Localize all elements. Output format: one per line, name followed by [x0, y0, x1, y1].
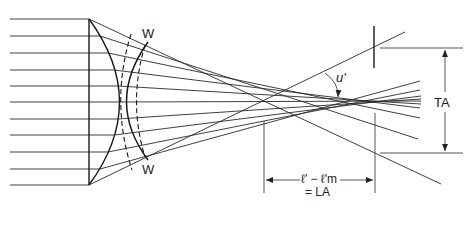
wavefront-w	[127, 42, 149, 160]
wavefront-label-top: W	[142, 26, 155, 41]
angle-label: u'	[336, 70, 346, 85]
refracted-rays	[89, 19, 441, 185]
wavefront-label-bottom: W	[142, 162, 155, 177]
la-formula-label: ℓ' − ℓ'm	[301, 172, 337, 186]
ta-label: TA	[434, 95, 450, 110]
la-result-label: = LA	[305, 185, 330, 199]
optics-diagram: W W u' TA ℓ' − ℓ'm = LA	[0, 0, 474, 225]
reference-sphere-right	[137, 45, 146, 157]
incident-rays	[10, 19, 119, 185]
